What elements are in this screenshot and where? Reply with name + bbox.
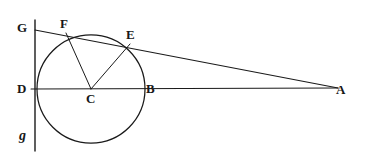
figure-strokes: [31, 20, 338, 151]
geometry-figure: G F E D C B A g: [0, 0, 365, 159]
point-label-E: E: [126, 28, 135, 41]
radius-CF: [66, 33, 91, 89]
point-label-C: C: [86, 92, 95, 105]
point-label-D: D: [17, 82, 26, 95]
radius-CE: [91, 44, 130, 89]
horizontal-line-DA: [31, 88, 338, 89]
point-label-A: A: [336, 83, 345, 96]
secant-line-GA: [35, 30, 338, 88]
geometry-canvas: [0, 0, 365, 159]
point-label-B: B: [146, 82, 155, 95]
point-label-g: g: [19, 129, 26, 143]
point-label-G: G: [17, 21, 27, 34]
point-label-F: F: [60, 17, 68, 30]
